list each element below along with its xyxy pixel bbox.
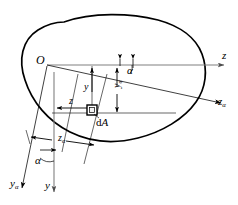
y-alpha-coordinate-base: y xyxy=(111,84,122,88)
origin-label: O xyxy=(36,54,45,66)
y-alpha-coordinate-label: yα xyxy=(112,80,123,88)
z-alpha-coordinate-subscript: α xyxy=(62,137,65,144)
y-coordinate-base: y xyxy=(84,81,88,92)
alpha-angle-arc-bottom xyxy=(40,158,54,162)
alpha-angle-label-bottom: α xyxy=(35,155,41,166)
z-alpha-axis-subscript: α xyxy=(222,101,226,108)
z-alpha-coordinate-label: zα xyxy=(58,133,65,144)
figure-container: O z zα α α y yα z zα dA y yα xyxy=(0,0,238,205)
element-dA-A: A xyxy=(102,116,109,128)
z-alpha-dimension-extension xyxy=(26,130,30,144)
y-axis-label: y xyxy=(45,180,50,191)
cross-section-diagram xyxy=(0,0,238,205)
cross-section-outline xyxy=(22,15,206,142)
z-coordinate-label: z xyxy=(69,96,73,106)
element-dA-label: dA xyxy=(96,117,108,128)
y-alpha-axis-label: yα xyxy=(10,178,18,191)
element-dA-inner xyxy=(90,108,95,113)
y-alpha-coordinate-subscript: α xyxy=(116,80,123,83)
y-alpha-axis-subscript: α xyxy=(15,183,19,190)
y-coordinate-label: y xyxy=(84,82,88,92)
z-alpha-axis-label: zα xyxy=(218,96,226,109)
alpha-angle-label-top: α xyxy=(127,65,133,76)
z-axis-label: z xyxy=(222,50,226,61)
z-alpha-dimension-arrow-left xyxy=(31,137,52,140)
